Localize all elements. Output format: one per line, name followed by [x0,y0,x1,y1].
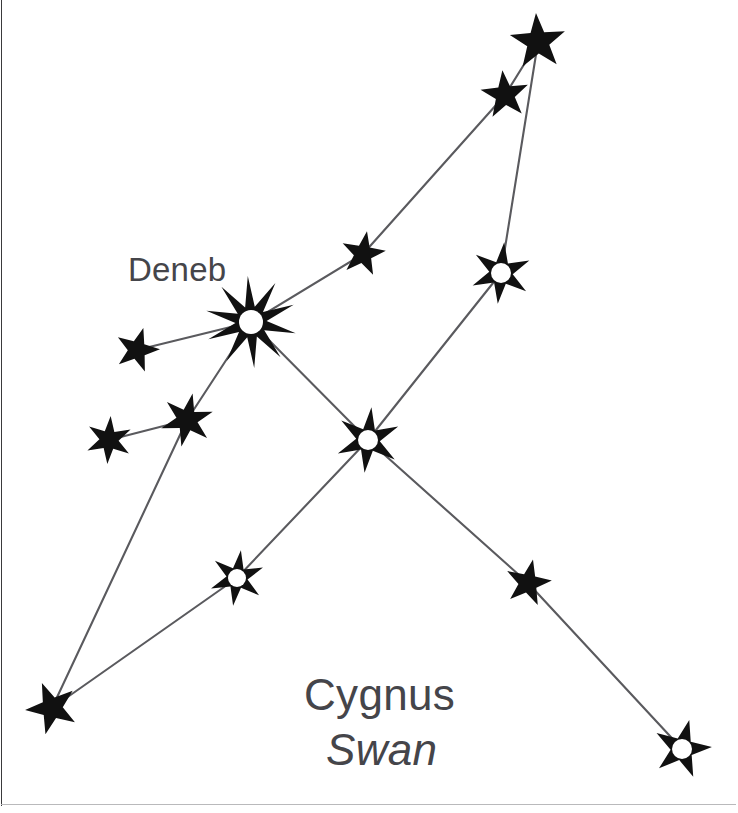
constellation-line [363,95,505,254]
star-marker [657,720,712,777]
star-marker [343,231,386,274]
star-glyph-icon [25,683,75,734]
star-glyph-icon [87,416,130,464]
star-core-hole [672,739,692,759]
star-marker [510,13,565,67]
constellation-name-label: Cygnus [304,673,455,717]
star-glyph-icon [510,13,565,67]
star-core-hole [491,263,511,283]
constellation-line [368,440,528,583]
constellation-line [501,42,538,273]
frame-bottom-border [1,804,736,805]
star-core-hole [239,310,263,334]
star-marker [473,242,530,304]
star-marker [481,70,528,117]
star-marker [118,328,160,372]
star-marker [87,416,130,464]
star-glyph-icon [118,328,160,372]
constellation-line [52,420,187,708]
constellation-chart: Deneb Cygnus Swan [0,0,738,813]
star-glyph-icon [481,70,528,117]
star-glyph-icon [343,231,386,274]
constellation-common-name-label: Swan [326,728,437,772]
constellation-line [52,578,237,708]
star-layer [25,13,712,777]
star-glyph-icon [507,560,552,605]
star-marker [507,560,552,605]
star-label-deneb: Deneb [128,253,226,286]
constellation-line [368,273,501,440]
star-core-hole [228,569,246,587]
star-core-hole [358,430,378,450]
star-marker [25,683,75,734]
frame-left-border [1,0,2,806]
constellation-line [528,583,682,749]
star-marker [161,394,212,447]
constellation-line [237,440,368,578]
constellation-line-layer [52,42,682,749]
star-glyph-icon [161,394,212,447]
